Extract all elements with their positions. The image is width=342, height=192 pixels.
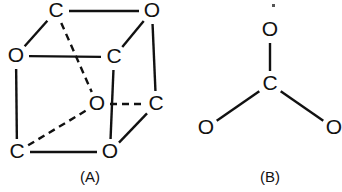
bond-solid — [153, 24, 156, 91]
bond-solid — [25, 21, 48, 47]
figure-canvas: COOCOCCOCOOO (A)(B) — [0, 0, 342, 192]
bond-solid — [122, 21, 143, 47]
atom-label-o: O — [262, 17, 278, 40]
bond-solid — [217, 91, 260, 120]
scan-speck — [272, 4, 275, 7]
atom-label-c: C — [148, 91, 163, 114]
bond-solid — [111, 70, 114, 139]
atom-label-c: C — [106, 44, 121, 67]
atom-label-o: O — [8, 43, 24, 66]
atom-label-o: O — [144, 0, 160, 21]
atom-label-o: O — [89, 91, 105, 114]
caption-layer: (A)(B) — [80, 168, 280, 185]
atom-label-o: O — [198, 115, 214, 138]
bond-dashed — [28, 111, 86, 146]
panel-caption-panel-b: (B) — [260, 168, 280, 185]
bond-solid — [16, 69, 17, 139]
atom-label-c: C — [48, 0, 63, 21]
atom-layer: COOCOCCOCOOO — [8, 0, 342, 162]
bond-solid — [29, 56, 101, 57]
atom-label-c: C — [262, 71, 277, 94]
bond-solid — [119, 113, 147, 142]
atom-label-c: C — [9, 139, 24, 162]
speck-layer — [272, 4, 275, 7]
atom-label-o: O — [102, 139, 118, 162]
panel-caption-panel-a: (A) — [80, 168, 100, 185]
atom-label-o: O — [326, 115, 342, 138]
bond-solid — [281, 91, 324, 120]
molecular-structure-figure: COOCOCCOCOOO (A)(B) — [0, 0, 342, 192]
